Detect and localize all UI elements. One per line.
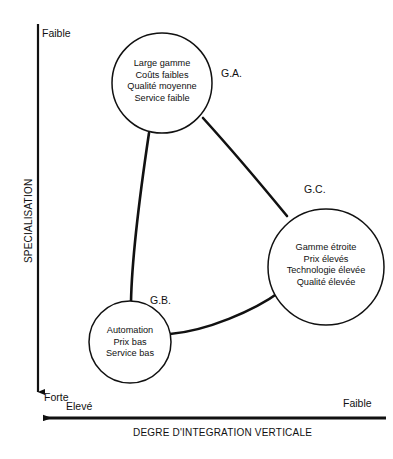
y-axis-title: SPECIALISATION [24,179,34,263]
y-axis-bottom-label: Forte [44,392,69,403]
x-axis-title: DEGRE D'INTEGRATION VERTICALE [133,428,312,438]
connector-ga-gc [203,118,287,216]
node-label-ga-line-1: Large gamme [102,58,222,70]
node-label-gc-line-4: Qualité élevée [262,277,390,289]
node-label-gc: Gamme étroite Prix élevés Technologie él… [262,242,390,288]
diagram-figure: Faible Forte SPECIALISATION Elevé Faible… [0,0,393,459]
node-label-gc-line-3: Technologie élevée [262,265,390,277]
node-label-gb: Automation Prix bas Service bas [76,325,184,360]
x-axis-right-label: Faible [343,398,372,409]
node-label-gb-line-2: Prix bas [76,337,184,349]
connector-ga-gb [131,133,149,302]
node-label-ga-line-2: Coûts faibles [102,70,222,82]
node-label-gb-line-1: Automation [76,325,184,337]
connector-gb-gc [170,291,281,334]
group-tag-gc: G.C. [304,184,326,195]
node-label-ga-line-4: Service faible [102,93,222,105]
node-label-gc-line-1: Gamme étroite [262,242,390,254]
x-axis-left-label: Elevé [66,401,92,412]
group-tag-gb: G.B. [150,295,171,306]
y-axis-top-label: Faible [42,28,71,39]
group-tag-ga: G.A. [221,68,242,79]
node-label-ga-line-3: Qualité moyenne [102,81,222,93]
node-label-gb-line-3: Service bas [76,348,184,360]
node-label-gc-line-2: Prix élevés [262,254,390,266]
node-label-ga: Large gamme Coûts faibles Qualité moyenn… [102,58,222,104]
